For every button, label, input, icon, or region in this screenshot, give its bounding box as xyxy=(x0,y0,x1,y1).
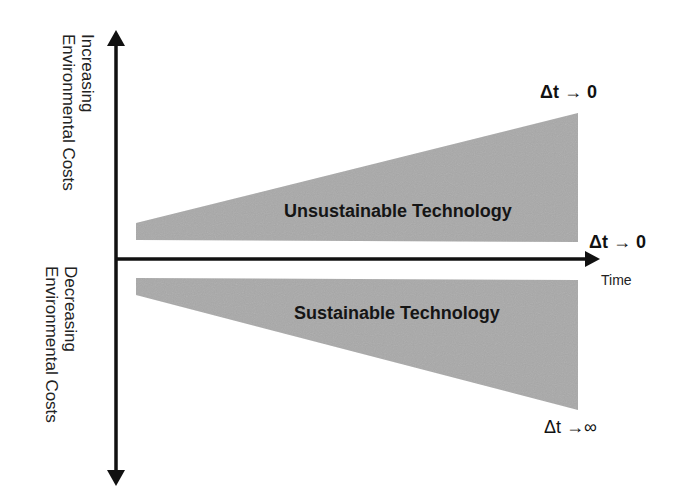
y-axis-negative-line2: Environmental Costs xyxy=(42,266,61,423)
y-axis-negative-line1: Decreasing xyxy=(61,266,80,423)
y-axis-up-arrow-icon xyxy=(107,30,125,46)
y-axis-down-arrow-icon xyxy=(107,470,125,486)
y-axis-positive-line1: Increasing xyxy=(78,34,97,191)
x-axis-label: Time xyxy=(601,272,632,288)
sustainable-technology-region xyxy=(136,278,578,410)
unsustainable-axis-delta-label: Δt → 0 xyxy=(589,232,646,253)
unsustainable-end-delta-label: Δt → 0 xyxy=(540,82,597,103)
x-axis-right-arrow-icon xyxy=(585,251,600,267)
unsustainable-technology-label: Unsustainable Technology xyxy=(284,201,512,222)
y-axis-positive-label: Increasing Environmental Costs xyxy=(59,34,97,191)
y-axis-positive-line2: Environmental Costs xyxy=(59,34,78,191)
sustainable-end-delta-label: Δt →∞ xyxy=(544,417,597,438)
unsustainable-technology-region xyxy=(136,113,578,242)
y-axis-negative-label: Decreasing Environmental Costs xyxy=(42,266,80,423)
sustainable-technology-label: Sustainable Technology xyxy=(294,303,500,324)
